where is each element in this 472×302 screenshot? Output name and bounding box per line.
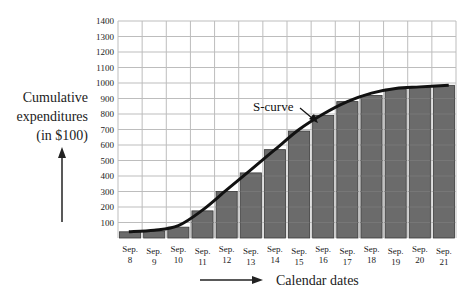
y-tick-label: 1000 [96, 78, 115, 88]
x-tick-label: 14 [270, 255, 280, 265]
y-tick-label: 800 [101, 109, 115, 119]
bar-sep-21 [433, 85, 454, 238]
x-tick-label: Sep. [388, 246, 404, 256]
y-tick-label: 900 [101, 94, 115, 104]
x-tick-label: 12 [222, 255, 231, 265]
bar-sep-14 [264, 150, 285, 238]
y-tick-label: 600 [101, 140, 115, 150]
s-curve-chart: 1002003004005006007008009001000110012001… [0, 0, 472, 302]
x-tick-label: Sep. [291, 246, 307, 256]
x-axis-ticks: Sep.8Sep.9Sep.10Sep.11Sep.12Sep.13Sep.14… [122, 244, 452, 267]
bar-sep-15 [289, 131, 310, 238]
x-tick-label: Sep. [243, 246, 259, 256]
y-tick-label: 500 [101, 156, 115, 166]
svg-text:Cumulative: Cumulative [23, 90, 88, 105]
x-tick-label: Sep. [219, 244, 235, 254]
x-tick-label: Sep. [412, 244, 428, 254]
y-tick-label: 100 [101, 218, 115, 228]
right-arrow-icon [200, 276, 263, 284]
x-tick-label: 13 [246, 257, 256, 267]
y-tick-label: 700 [101, 125, 115, 135]
bar-sep-16 [313, 116, 334, 238]
x-tick-label: Sep. [315, 244, 331, 254]
y-tick-label: 400 [101, 171, 115, 181]
s-curve-label: S-curve [253, 99, 294, 114]
x-tick-label: 19 [391, 257, 401, 267]
bar-sep-17 [337, 102, 358, 238]
y-tick-label: 300 [101, 187, 115, 197]
x-tick-label: Sep. [122, 244, 138, 254]
x-tick-label: 17 [343, 257, 353, 267]
svg-text:expenditures: expenditures [16, 109, 88, 124]
x-tick-label: 9 [152, 257, 157, 267]
y-tick-label: 1300 [96, 32, 115, 42]
up-arrow-icon [58, 147, 66, 222]
x-tick-label: 16 [319, 255, 329, 265]
x-tick-label: 11 [198, 257, 207, 267]
x-tick-label: Sep. [146, 246, 162, 256]
y-tick-label: 1200 [96, 47, 115, 57]
x-tick-label: 18 [367, 255, 377, 265]
y-axis-ticks: 1002003004005006007008009001000110012001… [96, 16, 115, 228]
y-tick-label: 1100 [96, 63, 114, 73]
x-tick-label: 21 [439, 257, 448, 267]
x-tick-label: Sep. [339, 246, 355, 256]
bar-sep-20 [409, 88, 430, 238]
x-tick-label: 10 [174, 255, 184, 265]
y-tick-label: 1400 [96, 16, 115, 26]
x-axis-label: Calendar dates [276, 273, 359, 288]
bar-sep-19 [385, 89, 406, 238]
bar-sep-18 [361, 95, 382, 238]
bar-sep-13 [240, 173, 261, 238]
x-tick-label: Sep. [267, 244, 283, 254]
x-tick-label: 15 [295, 257, 305, 267]
x-tick-label: Sep. [195, 246, 211, 256]
x-tick-label: Sep. [364, 244, 380, 254]
x-tick-label: Sep. [436, 246, 452, 256]
bar-sep-12 [216, 192, 237, 239]
x-tick-label: 8 [128, 255, 133, 265]
x-tick-label: Sep. [170, 244, 186, 254]
y-axis-label: Cumulative expenditures (in $100) [16, 90, 88, 144]
svg-text:(in $100): (in $100) [36, 128, 88, 144]
x-tick-label: 20 [415, 255, 425, 265]
y-tick-label: 200 [101, 202, 115, 212]
